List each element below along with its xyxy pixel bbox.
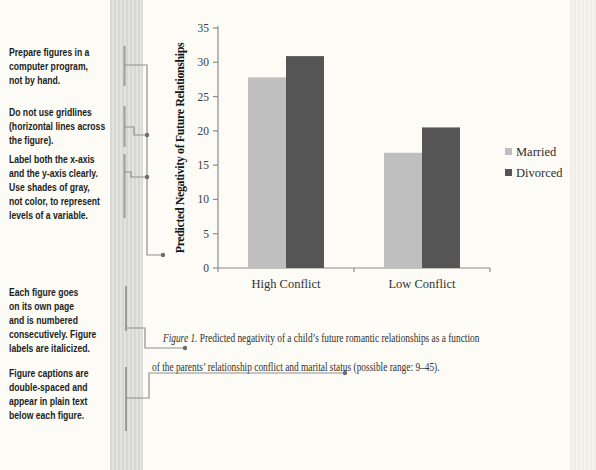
y-tick-label: 15 [198,159,210,171]
caption-line-1: Figure 1. Predicted negativity of a chil… [152,324,479,353]
y-axis-title: Predicted Negativity of Future Relations… [173,42,187,253]
bar-chart: 05101520253035High ConflictLow ConflictM… [170,8,596,308]
bar-divorced-high-conflict [286,56,324,268]
page-edge-band-left [110,0,143,470]
y-tick-label: 25 [198,91,210,103]
annotation-caption-style: Figure captions are double-spaced and ap… [9,366,114,422]
bar-married-low-conflict [384,153,422,268]
category-label: Low Conflict [388,277,456,291]
y-tick-label: 5 [203,228,209,240]
y-tick-label: 0 [203,262,209,274]
leader-dot-1 [161,253,165,257]
caption-line-2: of the parents’ relationship conflict an… [152,353,479,382]
annotation-prepare-figures: Prepare figures in a computer program, n… [9,45,114,87]
legend-label-divorced: Divorced [516,166,563,180]
annotation-no-gridlines: Do not use gridlines (horizontal lines a… [9,105,114,147]
bar-married-high-conflict [248,77,286,268]
caption-text-1: Predicted negativity of a child’s future… [200,331,480,345]
figure-label: Figure 1. [163,331,197,345]
bar-divorced-low-conflict [422,127,460,268]
legend-swatch-married [505,148,512,155]
annotation-label-axes: Label both the x-axis and the y-axis cle… [9,152,114,222]
caption-text-2: of the parents’ relationship conflict an… [152,360,440,374]
figure-1: 05101520253035High ConflictLow ConflictM… [170,8,596,312]
annotation-own-page: Each figure goes on its own page and is … [9,285,114,355]
legend-label-married: Married [516,145,557,159]
category-label: High Conflict [251,277,321,291]
y-tick-label: 35 [198,22,210,34]
leader-dot-2 [145,133,149,137]
style-manual-page: Prepare figures in a computer program, n… [0,0,596,470]
y-tick-label: 20 [198,125,210,137]
legend-swatch-divorced [505,169,512,176]
y-tick-label: 30 [198,56,210,68]
y-tick-label: 10 [198,193,210,205]
figure-caption: Figure 1. Predicted negativity of a chil… [152,324,572,382]
leader-dot-3 [145,175,149,179]
